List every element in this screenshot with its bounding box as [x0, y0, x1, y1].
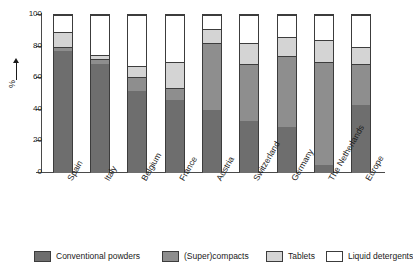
legend-label: Tablets [288, 252, 315, 261]
legend-label: Conventional powders [56, 252, 140, 261]
chart-legend: Conventional powders(Super)compactsTable… [34, 249, 390, 265]
bar-segment[interactable] [128, 66, 146, 77]
bar-segment[interactable] [91, 55, 109, 60]
bar-segment[interactable] [240, 64, 258, 121]
stacked-bar[interactable] [202, 14, 222, 172]
bar-segment[interactable] [128, 91, 146, 173]
bar-segment[interactable] [240, 121, 258, 173]
y-tick-label: 60 [8, 73, 42, 81]
stacked-bar[interactable] [127, 14, 147, 172]
y-tick: 40 [0, 109, 42, 110]
bar-segment[interactable] [315, 15, 333, 40]
legend-swatch [162, 251, 179, 262]
bar-group[interactable] [202, 14, 222, 172]
bar-group[interactable] [127, 14, 147, 172]
bar-segment[interactable] [278, 127, 296, 173]
bar-segment[interactable] [240, 15, 258, 43]
legend-item[interactable]: (Super)compacts [162, 249, 249, 263]
bar-group[interactable] [165, 14, 185, 172]
y-tick-label: 40 [8, 105, 42, 113]
y-axis-line [41, 13, 42, 173]
bar-segment[interactable] [278, 56, 296, 127]
bar-segment[interactable] [352, 15, 370, 47]
bar-segment[interactable] [54, 15, 72, 32]
legend-item[interactable]: Tablets [266, 249, 315, 263]
legend-item[interactable]: Liquid detergents [326, 249, 413, 263]
bar-segment[interactable] [315, 62, 333, 165]
y-tick: 80 [0, 46, 42, 47]
legend-swatch [34, 251, 51, 262]
bar-segment[interactable] [128, 15, 146, 66]
stacked-bar[interactable] [165, 14, 185, 172]
stacked-bar[interactable] [53, 14, 73, 172]
legend-swatch [266, 251, 283, 262]
bar-segment[interactable] [166, 62, 184, 87]
y-tick: 0 [0, 172, 42, 173]
legend-item[interactable]: Conventional powders [34, 249, 140, 263]
legend-label: Liquid detergents [348, 252, 413, 261]
y-tick: 60 [0, 77, 42, 78]
legend-label: (Super)compacts [184, 252, 249, 261]
bar-segment[interactable] [54, 47, 72, 52]
bar-segment[interactable] [203, 110, 221, 173]
legend-swatch [326, 251, 343, 262]
bar-segment[interactable] [203, 43, 221, 109]
bar-segment[interactable] [91, 59, 109, 64]
bar-segment[interactable] [352, 64, 370, 105]
stacked-bar[interactable] [314, 14, 334, 172]
bar-segment[interactable] [278, 37, 296, 56]
y-tick-label: 20 [8, 136, 42, 144]
bar-group[interactable] [277, 14, 297, 172]
stacked-bar[interactable] [239, 14, 259, 172]
bar-segment[interactable] [315, 40, 333, 62]
bar-group[interactable] [239, 14, 259, 172]
bar-segment[interactable] [166, 88, 184, 101]
bar-group[interactable] [314, 14, 334, 172]
bar-segment[interactable] [352, 47, 370, 64]
bar-segment[interactable] [240, 43, 258, 64]
bar-segment[interactable] [166, 15, 184, 62]
plot-area [44, 14, 380, 172]
bar-segment[interactable] [278, 15, 296, 37]
y-tick: 100 [0, 14, 42, 15]
y-tick-label: 0 [8, 168, 42, 176]
bar-segment[interactable] [91, 15, 109, 55]
stacked-bar[interactable] [90, 14, 110, 172]
bar-segment[interactable] [203, 15, 221, 29]
bar-group[interactable] [90, 14, 110, 172]
y-tick: 20 [0, 140, 42, 141]
y-tick-label: 100 [8, 10, 42, 18]
bar-segment[interactable] [91, 64, 109, 173]
bar-segment[interactable] [203, 29, 221, 43]
y-tick-label: 80 [8, 42, 42, 50]
bar-segment[interactable] [166, 100, 184, 173]
stacked-bar[interactable] [277, 14, 297, 172]
bar-segment[interactable] [54, 51, 72, 173]
bar-segment[interactable] [128, 77, 146, 91]
bar-group[interactable] [53, 14, 73, 172]
bar-segment[interactable] [54, 32, 72, 46]
